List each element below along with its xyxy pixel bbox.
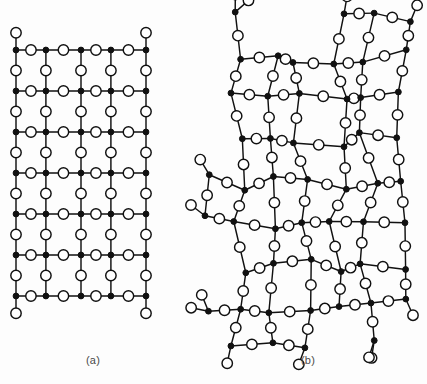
oxygen-atom bbox=[106, 147, 116, 157]
oxygen-atom bbox=[76, 270, 86, 280]
silicon-atom bbox=[239, 136, 245, 142]
oxygen-atom bbox=[393, 154, 403, 164]
oxygen-atom bbox=[195, 154, 205, 164]
panel-a-caption: (a) bbox=[86, 354, 100, 366]
oxygen-atom bbox=[11, 28, 21, 38]
silicon-atom bbox=[344, 96, 350, 102]
oxygen-atom bbox=[343, 58, 353, 68]
silicon-atom bbox=[13, 252, 19, 258]
silicon-atom bbox=[336, 304, 342, 310]
silicon-atom bbox=[78, 293, 84, 299]
oxygen-atom bbox=[378, 261, 388, 271]
oxygen-atom bbox=[26, 209, 36, 219]
oxygen-atom bbox=[314, 140, 324, 150]
oxygen-atom bbox=[11, 65, 21, 75]
oxygen-atom bbox=[91, 291, 101, 301]
oxygen-atom bbox=[233, 30, 243, 40]
silicon-atom bbox=[238, 306, 244, 312]
silicon-atom bbox=[375, 180, 381, 186]
silicon-atom bbox=[242, 187, 248, 193]
oxygen-atom bbox=[26, 291, 36, 301]
silicon-atom bbox=[357, 261, 363, 267]
silicon-atom bbox=[78, 170, 84, 176]
oxygen-atom bbox=[392, 110, 402, 120]
silicon-atom bbox=[398, 178, 404, 184]
oxygen-atom bbox=[41, 106, 51, 116]
panel-b-caption: (b) bbox=[301, 354, 315, 366]
oxygen-atom bbox=[299, 196, 309, 206]
oxygen-atom bbox=[364, 352, 374, 362]
silicon-atom bbox=[13, 129, 19, 135]
oxygen-atom bbox=[408, 310, 418, 320]
oxygen-atom bbox=[334, 34, 344, 44]
silicon-atom bbox=[290, 60, 296, 66]
silicon-atom bbox=[371, 10, 377, 16]
silicon-atom bbox=[78, 211, 84, 217]
oxygen-atom bbox=[231, 71, 241, 81]
silicon-atom bbox=[231, 219, 237, 225]
silicon-atom bbox=[13, 88, 19, 94]
structure-drawing-canvas bbox=[0, 0, 427, 384]
silicon-atom bbox=[13, 170, 19, 176]
oxygen-atom bbox=[235, 242, 245, 252]
oxygen-atom bbox=[58, 45, 68, 55]
oxygen-atom bbox=[222, 358, 232, 368]
oxygen-atom bbox=[76, 106, 86, 116]
oxygen-atom bbox=[123, 250, 133, 260]
oxygen-atom bbox=[141, 270, 151, 280]
oxygen-atom bbox=[250, 306, 260, 316]
oxygen-atom bbox=[384, 177, 394, 187]
oxygen-atom bbox=[254, 178, 264, 188]
oxygen-atom bbox=[11, 106, 21, 116]
oxygen-atom bbox=[357, 75, 367, 85]
silicon-atom bbox=[13, 211, 19, 217]
silicon-atom bbox=[356, 130, 362, 136]
oxygen-atom bbox=[254, 52, 264, 62]
silicon-atom bbox=[407, 19, 413, 25]
silicon-atom bbox=[326, 219, 332, 225]
silicon-atom bbox=[143, 211, 149, 217]
silicon-atom bbox=[266, 310, 272, 316]
oxygen-atom bbox=[58, 168, 68, 178]
silicon-atom bbox=[341, 11, 347, 17]
oxygen-atom bbox=[342, 0, 352, 2]
oxygen-atom bbox=[269, 197, 279, 207]
oxygen-atom bbox=[321, 260, 331, 270]
silicon-atom bbox=[341, 144, 347, 150]
silicon-atom bbox=[143, 252, 149, 258]
oxygen-atom bbox=[340, 163, 350, 173]
silicon-atom bbox=[108, 88, 114, 94]
oxygen-atom bbox=[123, 291, 133, 301]
silicon-atom bbox=[43, 170, 49, 176]
oxygen-atom bbox=[141, 308, 151, 318]
silicon-atom bbox=[358, 95, 364, 101]
silicon-atom bbox=[232, 9, 238, 15]
oxygen-atom bbox=[238, 286, 248, 296]
oxygen-atom bbox=[318, 91, 328, 101]
oxygen-atom bbox=[58, 86, 68, 96]
silicon-atom bbox=[108, 293, 114, 299]
silicon-atom bbox=[43, 293, 49, 299]
silicon-atom bbox=[291, 140, 297, 146]
oxygen-atom bbox=[267, 152, 277, 162]
oxygen-atom bbox=[11, 308, 21, 318]
oxygen-atom bbox=[303, 324, 313, 334]
oxygen-atom bbox=[91, 250, 101, 260]
oxygen-atom bbox=[335, 284, 345, 294]
oxygen-atom bbox=[379, 217, 389, 227]
oxygen-atom bbox=[222, 177, 232, 187]
silicon-atom bbox=[143, 88, 149, 94]
oxygen-atom bbox=[106, 65, 116, 75]
oxygen-atom bbox=[280, 54, 290, 64]
silicon-atom bbox=[305, 177, 311, 183]
oxygen-atom bbox=[41, 229, 51, 239]
oxygen-atom bbox=[91, 209, 101, 219]
silicon-atom bbox=[361, 219, 367, 225]
silicon-atom bbox=[296, 91, 302, 97]
oxygen-atom bbox=[26, 250, 36, 260]
silicon-atom bbox=[13, 293, 19, 299]
silicon-atom bbox=[108, 170, 114, 176]
silicon-atom bbox=[271, 174, 277, 180]
oxygen-atom bbox=[11, 270, 21, 280]
oxygen-atom bbox=[91, 45, 101, 55]
